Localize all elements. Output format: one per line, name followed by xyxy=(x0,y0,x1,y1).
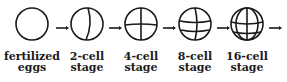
two-cell-icon xyxy=(71,8,103,40)
stage-label-4-cell: 4-cell stage xyxy=(111,51,171,73)
stage-label-8-cell: 8-cell stage xyxy=(165,51,225,73)
label-line2: eggs xyxy=(2,62,62,73)
stage-label-2-cell: 2-cell stage xyxy=(57,51,117,73)
four-cell-icon xyxy=(125,8,157,40)
arrow-icon xyxy=(109,26,122,30)
arrow-icon xyxy=(269,26,282,30)
fertilized-egg-icon xyxy=(16,8,48,40)
sixteen-cell-icon xyxy=(231,8,263,40)
stage-label-16-cell: 16-cell stage xyxy=(217,51,277,73)
label-line2: stage xyxy=(111,62,171,73)
label-line2: stage xyxy=(217,62,277,73)
label-line2: stage xyxy=(165,62,225,73)
eight-cell-icon xyxy=(179,8,211,40)
label-line2: stage xyxy=(57,62,117,73)
arrow-icon xyxy=(217,26,230,30)
stage-label-fertilized: fertilized eggs xyxy=(2,51,62,73)
arrow-icon xyxy=(56,26,69,30)
arrow-icon xyxy=(163,26,176,30)
